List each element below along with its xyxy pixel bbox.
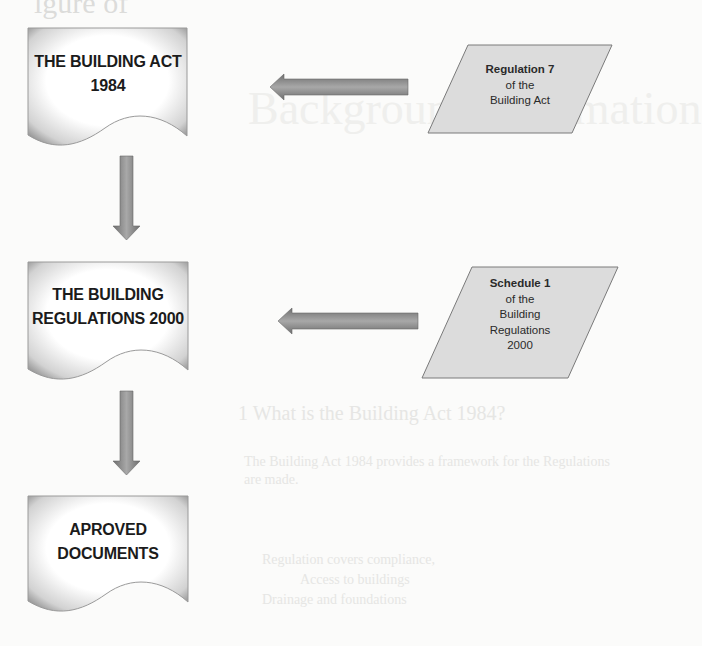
input-line: of the	[470, 292, 570, 308]
arrow-left-icon	[278, 308, 418, 334]
input-title: Regulation 7	[470, 62, 570, 78]
input-line: Building Act	[470, 93, 570, 109]
document-label: THE BUILDING ACT	[28, 50, 188, 74]
input-regulation-7: Regulation 7 of the Building Act	[470, 62, 570, 109]
arrow-left-icon	[270, 74, 408, 100]
document-label: APROVED	[28, 518, 188, 542]
document-building-regulations: THE BUILDING REGULATIONS 2000	[28, 283, 188, 331]
input-line: 2000	[470, 338, 570, 354]
document-label: THE BUILDING	[28, 283, 188, 307]
document-label: DOCUMENTS	[28, 542, 188, 566]
document-label: 1984	[28, 74, 188, 98]
input-line: Regulations	[470, 323, 570, 339]
document-approved-documents: APROVED DOCUMENTS	[28, 518, 188, 566]
arrow-down-icon	[113, 156, 140, 240]
arrow-down-icon	[113, 391, 140, 475]
input-line: Building	[470, 307, 570, 323]
input-line: of the	[470, 78, 570, 94]
input-schedule-1: Schedule 1 of the Building Regulations 2…	[470, 276, 570, 354]
document-label: REGULATIONS 2000	[28, 307, 188, 331]
document-building-act: THE BUILDING ACT 1984	[28, 50, 188, 98]
input-title: Schedule 1	[470, 276, 570, 292]
